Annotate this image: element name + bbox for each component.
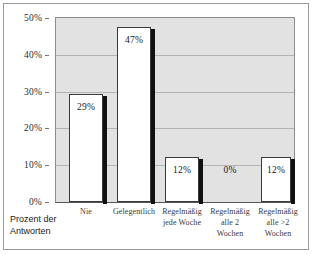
bar-value-label: 12% — [261, 165, 291, 175]
x-tick-label-regelmaessig-alle-gt2-wochen: Regelmäßig alle >2 Wochen — [247, 206, 309, 239]
bar-slot: 29% — [69, 17, 103, 202]
y-tick-label: 0% — [29, 197, 42, 207]
x-label-line: Regelmäßig — [247, 206, 309, 217]
x-axis: Nie Gelegentlich Regelmäßig jede Woche R… — [55, 206, 295, 252]
y-tick-mark — [45, 165, 49, 166]
x-label-line: Wochen — [247, 228, 309, 239]
y-tick-mark — [45, 55, 49, 56]
y-tick-mark — [45, 128, 49, 129]
chart-figure: 50% 40% 30% 20% 10% 0% 29% 47% 1 — [0, 0, 313, 254]
bar-slot: 47% — [117, 17, 151, 202]
bar-value-label: 29% — [69, 102, 103, 112]
y-tick-mark — [45, 202, 49, 203]
y-tick-label: 10% — [24, 160, 42, 170]
bar-shadow — [291, 159, 295, 204]
bar-shadow — [199, 159, 203, 204]
bar-value-label: 0% — [213, 165, 247, 175]
y-axis-title: Prozent der Antworten — [10, 213, 70, 237]
y-tick-mark — [45, 18, 49, 19]
bar-shadow — [103, 96, 107, 204]
y-tick-label: 50% — [24, 13, 42, 23]
y-tick-label: 40% — [24, 50, 42, 60]
x-label-line: alle >2 — [247, 217, 309, 228]
bar-value-label: 12% — [165, 165, 199, 175]
y-tick-label: 20% — [24, 123, 42, 133]
y-tick-label: 30% — [24, 87, 42, 97]
y-tick-mark — [45, 92, 49, 93]
bar-shadow — [151, 29, 155, 204]
bar-slot: 0% — [213, 17, 247, 202]
bars-layer: 29% 47% 12% 0% 12% — [55, 17, 295, 203]
bar-slot: 12% — [261, 17, 295, 202]
bar-value-label: 47% — [117, 35, 151, 45]
bar[interactable] — [117, 27, 151, 202]
bar-slot: 12% — [165, 17, 199, 202]
